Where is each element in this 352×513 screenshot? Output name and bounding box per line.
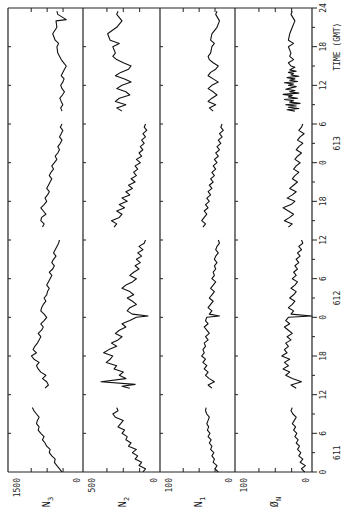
data-series-line — [283, 11, 300, 111]
value-min-label: 0 — [302, 478, 311, 483]
panel-name-label: N2 — [117, 497, 131, 507]
value-min-label: 0 — [225, 478, 234, 483]
multi-panel-time-series-chart: 06121806121806121824611612613TIME (GMT) … — [0, 0, 352, 513]
time-tick-label: 6 — [319, 276, 328, 281]
panel-name-label: N3 — [41, 497, 55, 507]
data-series-line — [108, 11, 132, 111]
panel-n3 — [31, 8, 66, 472]
panel-n2 — [101, 8, 148, 472]
time-tick-label: 18 — [319, 42, 328, 52]
data-series-line — [31, 240, 59, 388]
data-series-line — [41, 124, 63, 227]
data-series-line — [202, 240, 220, 388]
day-label: 612 — [333, 291, 342, 306]
time-tick-label: 24 — [319, 3, 328, 13]
time-tick-label: 18 — [319, 351, 328, 361]
data-series-line — [282, 240, 312, 388]
value-max-label: 100 — [165, 478, 174, 493]
data-series-line — [113, 408, 146, 472]
data-series-line — [291, 408, 305, 472]
time-tick-label: 0 — [319, 315, 328, 320]
value-max-label: 500 — [88, 478, 97, 493]
panel-n0 — [259, 8, 312, 472]
data-series-line — [53, 11, 67, 111]
panel-n1 — [183, 8, 223, 472]
time-axis-title: TIME (GMT) — [333, 23, 342, 71]
day-label: 613 — [333, 136, 342, 151]
value-min-label: 0 — [150, 478, 159, 483]
time-tick-label: 12 — [319, 80, 328, 90]
time-tick-label: 6 — [319, 121, 328, 126]
data-series-line — [32, 408, 62, 472]
value-min-label: 0 — [73, 478, 82, 483]
data-series-line — [208, 11, 219, 111]
chart-canvas: 06121806121806121824611612613TIME (GMT) … — [0, 0, 352, 513]
time-axis: 06121806121806121824611612613TIME (GMT) — [312, 3, 342, 474]
time-tick-label: 18 — [319, 196, 328, 206]
day-label: 611 — [333, 445, 342, 460]
data-series-line — [112, 124, 147, 227]
time-tick-label: 12 — [319, 390, 328, 400]
value-max-label: 1500 — [13, 478, 22, 497]
time-tick-label: 6 — [319, 431, 328, 436]
panel-labels: 15000N35000N21000N11000ØN — [13, 478, 311, 507]
data-series-line — [283, 124, 304, 227]
time-tick-label: 0 — [319, 469, 328, 474]
chart-frame — [8, 8, 312, 472]
data-series-line — [202, 124, 224, 227]
panel-name-label: ØN — [269, 497, 283, 507]
panel-name-label: N1 — [193, 497, 207, 507]
value-max-label: 100 — [240, 478, 249, 493]
time-tick-label: 0 — [319, 160, 328, 165]
chart-panels — [31, 8, 312, 472]
data-series-line — [101, 240, 148, 388]
time-tick-label: 12 — [319, 235, 328, 245]
data-series-line — [206, 408, 219, 472]
